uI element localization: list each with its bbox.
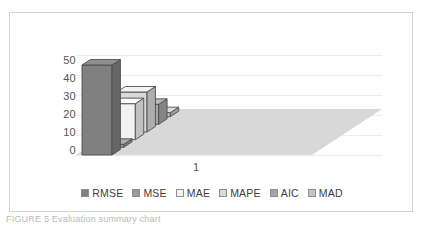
bar-side-RMSE: [112, 59, 120, 155]
y-tick-30: 30: [46, 91, 76, 102]
legend-item-mse[interactable]: MSE: [132, 188, 166, 199]
legend-item-mae[interactable]: MAE: [176, 188, 210, 199]
y-tick-10: 10: [46, 127, 76, 138]
legend-label-mad: MAD: [319, 188, 343, 199]
legend-swatch-icon-mae: [176, 189, 184, 197]
y-tick-0: 0: [46, 145, 76, 156]
bar-side-MAE: [135, 98, 143, 140]
legend-swatch-icon-mad: [308, 189, 316, 197]
legend-swatch-icon-mse: [132, 189, 140, 197]
x-axis-category-label: 1: [176, 161, 216, 173]
legend-label-mse: MSE: [143, 188, 166, 199]
legend-label-rmse: RMSE: [92, 188, 123, 199]
x-axis-labels: 1: [76, 161, 386, 181]
legend-swatch-icon-aic: [270, 189, 278, 197]
y-tick-50: 50: [46, 55, 76, 66]
legend-swatch-icon-rmse: [81, 189, 89, 197]
chart-bars: [76, 13, 388, 173]
figure-caption-strip: FIGURE 5 Evaluation summary chart: [6, 214, 236, 227]
y-tick-20: 20: [46, 109, 76, 120]
legend-label-aic: AIC: [281, 188, 299, 199]
bars-svg: [76, 13, 388, 173]
bar-front-RMSE: [82, 65, 112, 155]
legend-swatch-icon-mape: [219, 189, 227, 197]
y-tick-40: 40: [46, 73, 76, 84]
bar-side-MAPE: [147, 86, 155, 132]
legend-item-mad[interactable]: MAD: [308, 188, 343, 199]
figure-caption-text: FIGURE 5 Evaluation summary chart: [6, 214, 236, 224]
legend-item-rmse[interactable]: RMSE: [81, 188, 123, 199]
legend-item-mape[interactable]: MAPE: [219, 188, 261, 199]
chart-figure-frame: 50 40 30 20 10 0 1 RMSEMSEMAEMAPEAICMAD: [9, 12, 413, 212]
legend-label-mape: MAPE: [230, 188, 261, 199]
chart-legend: RMSEMSEMAEMAPEAICMAD: [10, 183, 414, 203]
chart-plot-area: 50 40 30 20 10 0 1: [10, 13, 414, 173]
legend-item-aic[interactable]: AIC: [270, 188, 299, 199]
y-axis-tick-labels: 50 40 30 20 10 0: [42, 13, 76, 173]
legend-label-mae: MAE: [187, 188, 210, 199]
